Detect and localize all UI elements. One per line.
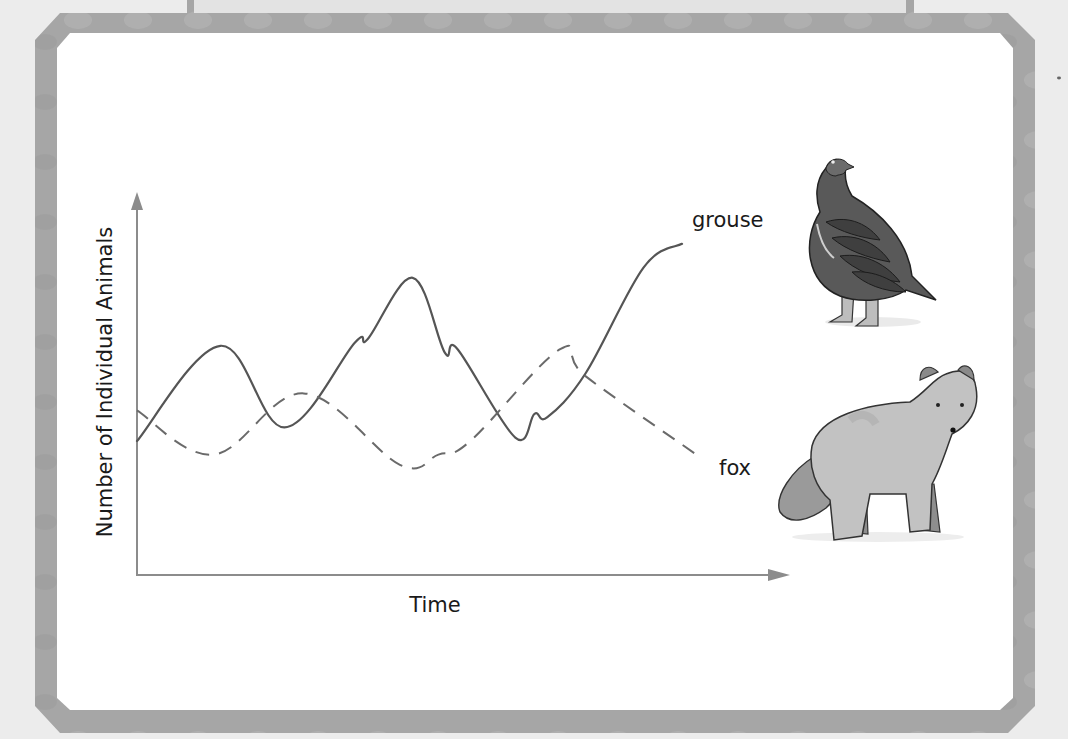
chart-panel — [57, 33, 1013, 710]
y-axis-label: Number of Individual Animals — [93, 227, 117, 538]
fox-series-label: fox — [719, 456, 751, 480]
x-axis-label: Time — [408, 593, 460, 617]
chart-figure: Number of Individual Animals Time grouse… — [0, 0, 1068, 739]
speck — [1057, 77, 1061, 80]
grouse-series-label: grouse — [692, 208, 764, 232]
